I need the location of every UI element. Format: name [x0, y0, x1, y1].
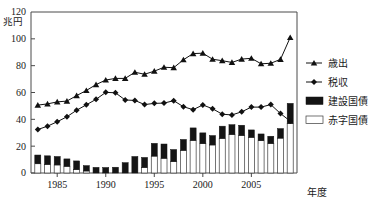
x-axis-ticks: [57, 173, 251, 177]
bar-segment-kensetsu-kokusai: [248, 130, 254, 137]
data-point-marker: [64, 114, 70, 120]
bar-segment-kensetsu-kokusai: [190, 128, 196, 140]
bar-segment-kensetsu-kokusai: [239, 125, 245, 135]
y-tick-label: 20: [16, 141, 26, 152]
data-point-marker: [258, 104, 264, 110]
bar-segment-kensetsu-kokusai: [74, 161, 80, 170]
bar-segment-kensetsu-kokusai: [210, 136, 216, 145]
bar-segment-kensetsu-kokusai: [277, 129, 283, 139]
bar-segment-kensetsu-kokusai: [258, 134, 264, 141]
x-axis-labels: 19851990199520002005: [47, 179, 261, 190]
data-point-marker: [287, 34, 294, 40]
x-tick-label: 2000: [193, 179, 213, 190]
bar-segment-akaji-kokusai: [258, 141, 264, 173]
bar-segment-akaji-kokusai: [44, 164, 50, 173]
bar-segment-kensetsu-kokusai: [161, 144, 167, 158]
bar-segment-akaji-kokusai: [180, 150, 186, 173]
bar-segment-kensetsu-kokusai: [93, 167, 99, 173]
bar-segment-kensetsu-kokusai: [122, 163, 128, 173]
bar-segment-akaji-kokusai: [277, 138, 283, 173]
bar-segment-akaji-kokusai: [142, 167, 148, 173]
chart-container: 020406080100120 19851990199520002005 歳出税…: [0, 0, 373, 213]
data-point-marker: [200, 102, 206, 108]
legend-marker-icon: [311, 79, 317, 85]
bar-segment-kensetsu-kokusai: [142, 157, 148, 167]
data-point-marker: [73, 92, 80, 98]
bar-segment-akaji-kokusai: [35, 164, 41, 173]
x-axis-title: 年度: [307, 186, 327, 198]
bar-segment-akaji-kokusai: [190, 140, 196, 173]
legend-label: 建設国債: [328, 95, 368, 107]
bar-segment-kensetsu-kokusai: [35, 155, 41, 164]
bar-segment-akaji-kokusai: [248, 137, 254, 173]
bar-segment-akaji-kokusai: [64, 166, 70, 173]
bar-segment-kensetsu-kokusai: [268, 136, 274, 143]
x-tick-label: 1985: [47, 179, 67, 190]
x-tick-label: 1995: [144, 179, 164, 190]
bar-segment-kensetsu-kokusai: [151, 143, 157, 156]
data-point-marker: [83, 87, 90, 93]
data-point-marker: [239, 109, 245, 115]
legend-filled-swatch: [306, 97, 323, 105]
bar-segment-kensetsu-kokusai: [229, 125, 235, 135]
data-point-marker: [151, 68, 158, 74]
legend-item-4: 赤字国債: [306, 114, 368, 126]
y-tick-label: 0: [21, 167, 26, 178]
data-point-marker: [93, 81, 100, 87]
data-point-marker: [190, 107, 196, 113]
bar-segment-akaji-kokusai: [239, 135, 245, 173]
bar-segment-kensetsu-kokusai: [54, 156, 60, 164]
bar-segment-kensetsu-kokusai: [132, 156, 138, 173]
data-point-marker: [180, 57, 187, 63]
legend-label: 税収: [328, 76, 348, 88]
data-point-marker: [54, 119, 60, 125]
y-axis-unit-label: 兆円: [3, 16, 23, 27]
chart-legend: 歳出税収建設国債赤字国債: [306, 57, 368, 126]
data-point-marker: [180, 104, 186, 110]
data-point-marker: [132, 69, 139, 75]
x-tick-label: 1990: [96, 179, 116, 190]
legend-item-3: 建設国債: [306, 95, 368, 107]
data-point-marker: [229, 112, 235, 118]
legend-label: 赤字国債: [328, 114, 368, 126]
data-point-marker: [35, 127, 41, 133]
legend-item-2: 税収: [306, 76, 348, 88]
data-point-marker: [151, 100, 157, 106]
bar-segment-kensetsu-kokusai: [219, 126, 225, 138]
x-tick-label: 2005: [241, 179, 261, 190]
legend-hollow-swatch: [306, 116, 323, 124]
stacked-bars: [35, 103, 293, 173]
bar-segment-akaji-kokusai: [229, 134, 235, 173]
bar-segment-kensetsu-kokusai: [44, 156, 50, 165]
bar-segment-akaji-kokusai: [200, 144, 206, 173]
bar-segment-kensetsu-kokusai: [103, 167, 109, 173]
bar-segment-akaji-kokusai: [171, 162, 177, 173]
bar-segment-kensetsu-kokusai: [171, 150, 177, 162]
bar-segment-akaji-kokusai: [83, 171, 89, 173]
data-point-marker: [171, 98, 177, 104]
data-point-marker: [45, 123, 51, 129]
y-tick-label: 100: [11, 33, 26, 44]
legend-label: 歳出: [328, 57, 348, 69]
bar-segment-kensetsu-kokusai: [200, 133, 206, 144]
data-point-marker: [142, 102, 148, 108]
data-point-marker: [83, 102, 89, 108]
data-point-marker: [74, 107, 80, 113]
line-series: [35, 34, 294, 132]
bar-segment-kensetsu-kokusai: [180, 139, 186, 150]
y-tick-label: 60: [16, 87, 26, 98]
data-point-marker: [210, 106, 216, 112]
y-axis-ticks: [31, 39, 35, 173]
bar-segment-kensetsu-kokusai: [64, 159, 70, 166]
data-point-marker: [248, 104, 254, 110]
y-tick-label: 40: [16, 114, 26, 125]
bar-segment-akaji-kokusai: [268, 143, 274, 173]
fiscal-chart: 020406080100120 19851990199520002005 歳出税…: [0, 0, 373, 213]
y-axis-labels: 020406080100120: [11, 6, 26, 178]
legend-item-1: 歳出: [306, 57, 348, 69]
bar-segment-akaji-kokusai: [151, 156, 157, 173]
bar-segment-akaji-kokusai: [219, 138, 225, 173]
data-point-marker: [161, 100, 167, 106]
bar-segment-kensetsu-kokusai: [112, 167, 118, 173]
data-point-marker: [209, 56, 216, 62]
